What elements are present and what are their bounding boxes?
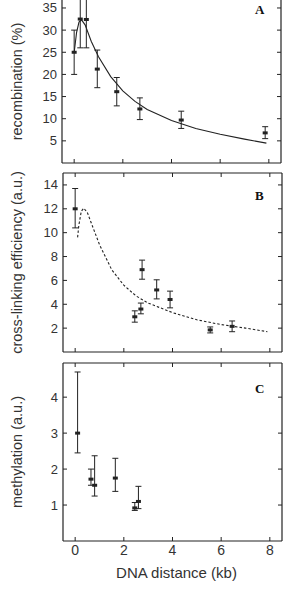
data-point — [132, 503, 138, 511]
y-tick-label: 6 — [51, 273, 58, 288]
y-tick-label: 8 — [51, 249, 58, 264]
panel-c-letter: C — [255, 381, 264, 396]
panel-a-frame — [62, 0, 281, 163]
panel-b-letter: B — [255, 188, 264, 203]
data-point — [112, 458, 118, 491]
x-tick-label: 6 — [217, 542, 225, 558]
data-point — [137, 98, 143, 120]
y-tick-label: 1 — [51, 498, 58, 513]
data-point — [135, 486, 141, 508]
x-axis-label: DNA distance (kb) — [116, 564, 237, 581]
y-tick-label: 5 — [50, 133, 57, 148]
panel-a-y-axis: 5101520253035 — [43, 0, 281, 148]
y-tick-label: 15 — [43, 89, 57, 104]
panel-c-methylation: 1234 methylation (a.u.) C — [9, 363, 282, 541]
data-point — [207, 327, 213, 333]
data-point — [75, 372, 81, 453]
panel-b-x-axis — [75, 173, 270, 352]
data-point — [72, 189, 78, 228]
panel-a-data-points — [71, 0, 268, 139]
data-point — [88, 469, 94, 485]
data-point — [229, 321, 235, 332]
panel-b-fit-curve — [78, 208, 268, 332]
y-tick-label: 20 — [43, 67, 57, 82]
data-point — [262, 127, 268, 139]
y-tick-label: 14 — [44, 177, 58, 192]
y-tick-label: 4 — [51, 297, 58, 312]
panel-c-data-points — [75, 372, 142, 510]
figure: 5101520253035 recombination (%) A 246810… — [0, 0, 288, 590]
data-point — [132, 311, 138, 322]
panel-c-y-label: methylation (a.u.) — [9, 396, 25, 508]
panel-c-x-axis — [75, 363, 270, 541]
y-tick-label: 10 — [44, 225, 58, 240]
panel-a-y-label: recombination (%) — [9, 23, 25, 141]
y-tick-label: 35 — [43, 0, 57, 15]
data-point — [167, 291, 173, 308]
y-tick-label: 12 — [44, 201, 58, 216]
chart-canvas: 5101520253035 recombination (%) A 246810… — [0, 0, 288, 590]
panel-a-recombination: 5101520253035 recombination (%) A — [9, 0, 281, 163]
panel-c-y-axis: 1234 — [51, 390, 282, 513]
data-point — [154, 280, 160, 299]
panel-b-cross-linking: 2468101214 cross-linking efficiency (a.u… — [9, 171, 282, 354]
x-tick-label: 2 — [120, 542, 128, 558]
x-tick-label: 0 — [71, 542, 79, 558]
y-tick-label: 2 — [51, 321, 58, 336]
data-point — [94, 50, 100, 88]
panel-b-y-axis: 2468101214 — [44, 177, 282, 335]
y-tick-label: 4 — [51, 390, 58, 405]
panel-c-frame — [63, 363, 282, 541]
x-tick-labels: 02468 — [71, 542, 274, 558]
data-point — [139, 260, 145, 279]
panel-b-frame — [63, 173, 282, 352]
panel-a-letter: A — [255, 2, 265, 17]
x-tick-label: 4 — [169, 542, 177, 558]
data-point — [138, 303, 144, 314]
data-point — [92, 456, 98, 496]
x-tick-label: 8 — [266, 542, 274, 558]
panel-b-y-label: cross-linking efficiency (a.u.) — [9, 171, 25, 354]
data-point — [178, 111, 184, 128]
y-tick-label: 10 — [43, 111, 57, 126]
panel-b-data-points — [72, 189, 235, 333]
y-tick-label: 3 — [51, 426, 58, 441]
y-tick-label: 2 — [51, 462, 58, 477]
y-tick-label: 30 — [43, 23, 57, 38]
panel-a-fit-curve — [74, 20, 266, 143]
y-tick-label: 25 — [43, 45, 57, 60]
